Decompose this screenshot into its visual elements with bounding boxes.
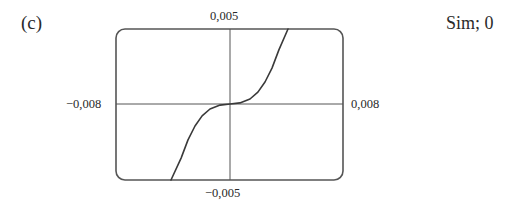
plot-area [0,0,529,218]
